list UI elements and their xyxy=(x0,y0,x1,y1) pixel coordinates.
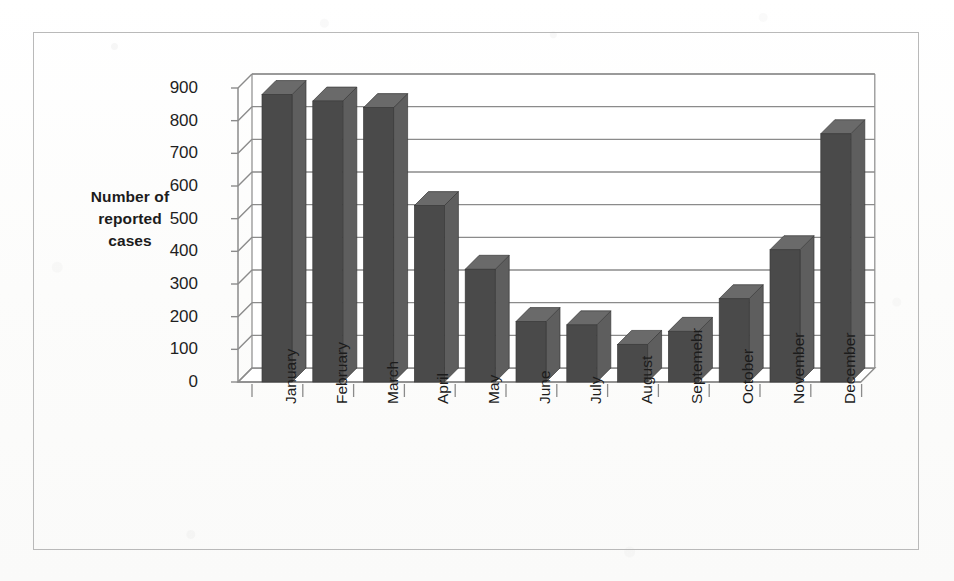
x-axis-tick-labels: JanuaryFebruaryMarchAprilMayJuneJulyAugu… xyxy=(0,0,954,581)
x-tick-label: March xyxy=(385,361,401,404)
x-tick-label: April xyxy=(435,373,451,404)
x-tick-label: July xyxy=(588,376,604,404)
x-tick-label: August xyxy=(639,356,655,404)
x-tick-label: Septemebr xyxy=(689,328,705,404)
x-tick-label: February xyxy=(334,342,350,404)
x-tick-label: October xyxy=(740,349,756,404)
x-tick-label: May xyxy=(486,375,502,404)
x-tick-label: November xyxy=(791,333,807,405)
x-tick-label: January xyxy=(283,349,299,404)
x-tick-label: June xyxy=(537,370,553,404)
x-tick-label: December xyxy=(842,333,858,405)
